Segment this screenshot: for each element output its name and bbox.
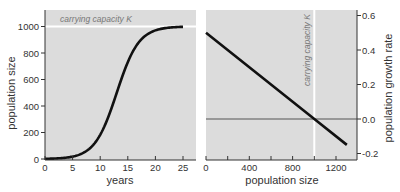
left-carrying-capacity-label: carrying capacity K [60,14,132,24]
left-ytick-label: 0 [34,154,39,165]
left-xtick-label: 10 [95,162,106,173]
left-ytick-label: 800 [23,48,39,59]
right-xtick-label: 400 [241,162,257,173]
right-ytick-label: 0.2 [362,79,375,90]
left-y-axis-title: population size [5,56,17,129]
right-ytick-label: 0.6 [362,10,375,21]
left-x-axis-title: years [107,174,134,186]
right-y-ticks: -0.2 0.0 0.2 0.4 0.6 [357,10,378,159]
right-carrying-capacity-label: carrying capacity K [302,14,312,86]
right-ytick-label: 0.4 [362,45,375,56]
left-chart: carrying capacity K 0 200 400 600 800 10… [5,10,196,186]
left-ytick-label: 1000 [18,21,39,32]
right-x-axis-title: population size [245,174,318,186]
left-xtick-label: 25 [178,162,189,173]
right-xtick-label: 1200 [325,162,346,173]
left-ytick-label: 200 [23,127,39,138]
right-ytick-label: 0.0 [362,114,375,125]
left-ytick-label: 400 [23,101,39,112]
left-y-ticks: 0 200 400 600 800 1000 [18,21,45,165]
right-ytick-label: -0.2 [362,148,378,159]
right-chart: carrying capacity K 0 400 800 1200 [203,10,394,186]
left-ytick-label: 600 [23,74,39,85]
left-xtick-label: 15 [123,162,134,173]
right-plot-area [206,10,357,160]
right-xtick-label: 800 [285,162,301,173]
right-xtick-label: 0 [203,162,208,173]
chart-figure: carrying capacity K 0 200 400 600 800 10… [0,0,400,192]
left-xtick-label: 0 [42,162,47,173]
left-xtick-label: 20 [150,162,161,173]
right-y-axis-title: population growth rate [382,34,394,143]
left-xtick-label: 5 [70,162,75,173]
